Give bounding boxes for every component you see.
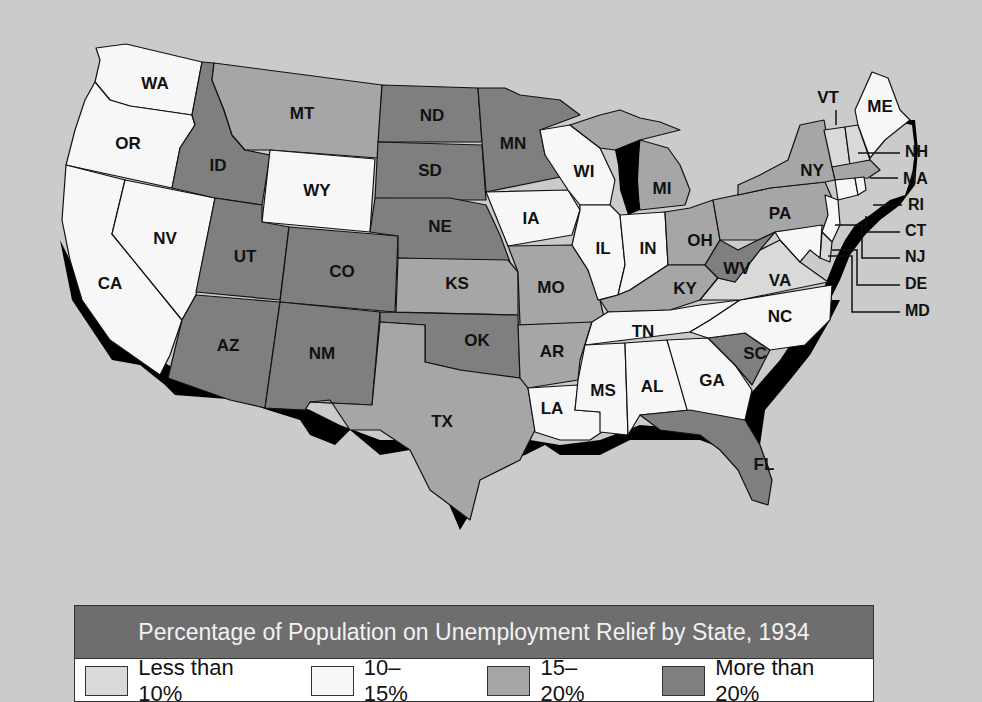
label-NJ: NJ [905, 248, 925, 265]
us-choropleth-map: WA OR CA NV ID MT WY UT CO AZ NM ND SD N… [0, 0, 982, 702]
label-NC: NC [768, 307, 793, 326]
label-NY: NY [800, 161, 824, 180]
label-MI: MI [653, 179, 672, 198]
swatch-gt20 [662, 666, 705, 696]
label-ID: ID [210, 156, 227, 175]
label-WI: WI [574, 162, 595, 181]
label-PA: PA [769, 204, 791, 223]
label-RI: RI [908, 196, 924, 213]
swatch-10-15 [311, 666, 354, 696]
label-NM: NM [309, 344, 335, 363]
legend-item-10-15: 10–15% [311, 655, 440, 702]
label-OK: OK [464, 331, 490, 350]
label-ND: ND [420, 106, 445, 125]
label-MS: MS [590, 381, 616, 400]
label-KY: KY [673, 279, 697, 298]
lake-michigan [615, 140, 640, 215]
label-IN: IN [640, 239, 657, 258]
label-VT: VT [817, 88, 839, 107]
label-IA: IA [523, 209, 540, 228]
label-SC: SC [743, 344, 767, 363]
label-OH: OH [687, 231, 713, 250]
label-MN: MN [500, 134, 526, 153]
legend-label: More than 20% [715, 655, 855, 702]
label-SD: SD [418, 161, 442, 180]
label-CO: CO [329, 262, 355, 281]
label-MT: MT [290, 104, 315, 123]
label-AZ: AZ [217, 336, 240, 355]
legend-label: Less than 10% [138, 655, 274, 702]
label-CT: CT [905, 222, 927, 239]
label-WV: WV [723, 259, 751, 278]
label-DE: DE [905, 275, 928, 292]
label-LA: LA [541, 399, 564, 418]
label-UT: UT [234, 247, 257, 266]
swatch-lt10 [85, 666, 128, 696]
label-WY: WY [303, 181, 331, 200]
map-legend: Percentage of Population on Unemployment… [74, 605, 874, 702]
legend-items: Less than 10% 10–15% 15–20% More than 20… [75, 659, 873, 702]
label-GA: GA [699, 371, 725, 390]
legend-label: 15–20% [540, 655, 616, 702]
label-ME: ME [867, 97, 893, 116]
label-TX: TX [431, 412, 453, 431]
state-CT [835, 178, 858, 200]
label-IL: IL [595, 239, 610, 258]
legend-item-lt10: Less than 10% [85, 655, 275, 702]
legend-label: 10–15% [364, 655, 440, 702]
label-MO: MO [537, 278, 564, 297]
label-CA: CA [98, 274, 123, 293]
label-FL: FL [754, 455, 775, 474]
legend-title: Percentage of Population on Unemployment… [75, 606, 873, 659]
label-OR: OR [115, 134, 141, 153]
label-TN: TN [632, 322, 655, 341]
label-NE: NE [428, 217, 452, 236]
state-MI [635, 140, 690, 210]
label-AL: AL [641, 377, 664, 396]
label-MA: MA [903, 170, 928, 187]
legend-item-gt20: More than 20% [662, 655, 855, 702]
label-MD: MD [905, 302, 930, 319]
label-WA: WA [141, 74, 168, 93]
label-VA: VA [769, 271, 791, 290]
label-KS: KS [445, 274, 469, 293]
legend-item-15-20: 15–20% [487, 655, 616, 702]
label-NV: NV [153, 229, 177, 248]
label-AR: AR [540, 342, 565, 361]
swatch-15-20 [487, 666, 530, 696]
label-NH: NH [905, 143, 928, 160]
